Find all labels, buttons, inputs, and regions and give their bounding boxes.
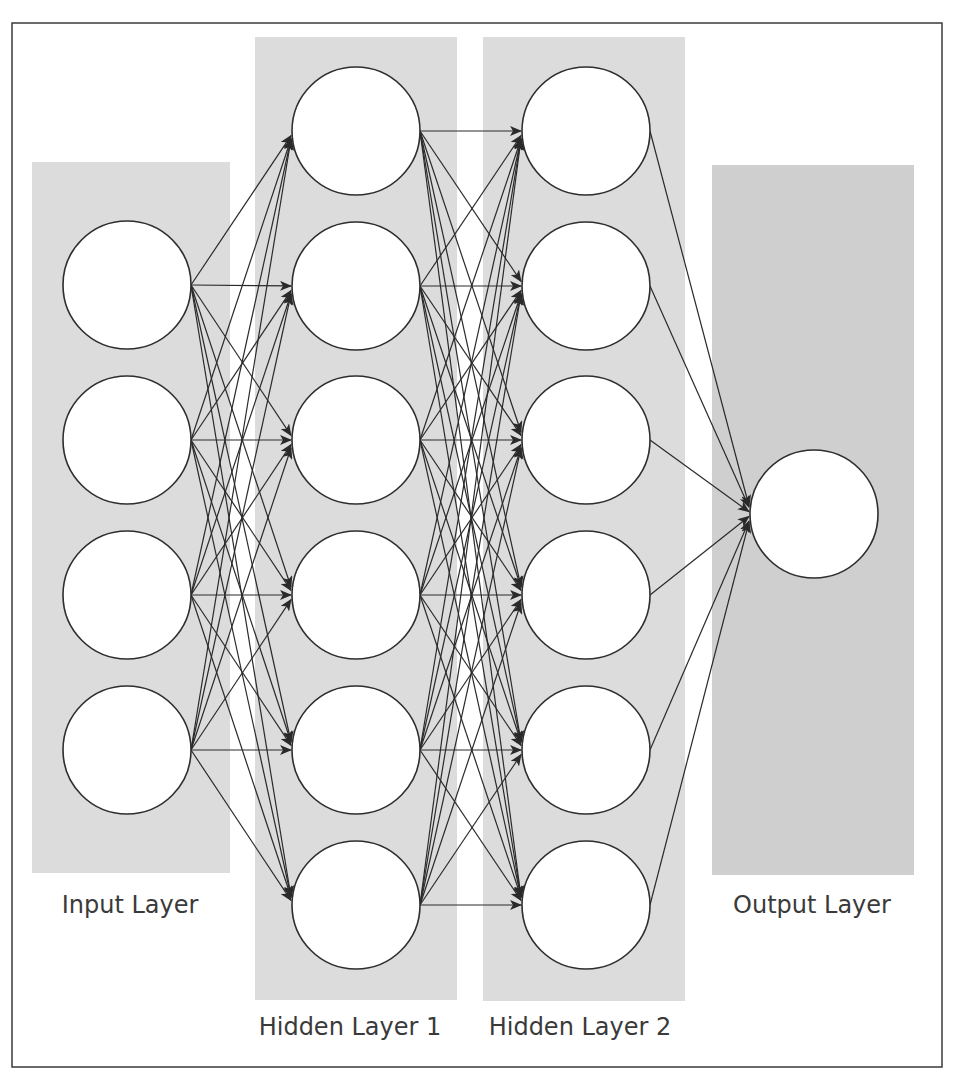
hidden1-neuron-1 (292, 67, 420, 195)
hidden2-neuron-3 (522, 376, 650, 504)
input-neuron-1 (63, 221, 191, 349)
hidden-layer-2-label: Hidden Layer 2 (489, 1013, 672, 1041)
hidden2-neuron-1 (522, 67, 650, 195)
hidden1-neuron-6 (292, 841, 420, 969)
output-neuron-1 (750, 450, 878, 578)
hidden2-neuron-6 (522, 841, 650, 969)
hidden-layer-1-label: Hidden Layer 1 (259, 1013, 442, 1041)
hidden2-neuron-5 (522, 686, 650, 814)
hidden1-neuron-5 (292, 686, 420, 814)
input-neuron-4 (63, 686, 191, 814)
output-layer-label: Output Layer (733, 891, 891, 919)
input-neuron-2 (63, 376, 191, 504)
hidden1-neuron-2 (292, 222, 420, 350)
hidden1-neuron-4 (292, 531, 420, 659)
input-layer-label: Input Layer (62, 891, 199, 919)
neural-network-diagram: Input Layer Hidden Layer 1 Hidden Layer … (0, 0, 956, 1080)
hidden2-neuron-4 (522, 531, 650, 659)
input-neuron-3 (63, 531, 191, 659)
hidden2-neuron-2 (522, 222, 650, 350)
hidden1-neuron-3 (292, 376, 420, 504)
